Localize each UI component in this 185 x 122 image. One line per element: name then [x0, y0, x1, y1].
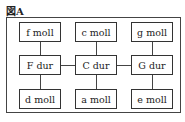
connector [96, 75, 97, 89]
connector [117, 65, 131, 66]
connector [152, 75, 153, 89]
figure-label: 図A [6, 3, 24, 18]
key-box-g-moll: g moll [131, 22, 173, 42]
connector [40, 75, 41, 89]
key-box-c-moll: c moll [75, 22, 117, 42]
key-box-e-moll: e moll [131, 89, 173, 109]
connector [61, 65, 75, 66]
key-box-a-moll: a moll [75, 89, 117, 109]
key-box-d-moll: d moll [19, 89, 61, 109]
key-box-f-moll: f moll [19, 22, 61, 42]
key-box-c-dur: C dur [75, 55, 117, 75]
key-box-g-dur: G dur [131, 55, 173, 75]
key-box-f-dur: F dur [19, 55, 61, 75]
